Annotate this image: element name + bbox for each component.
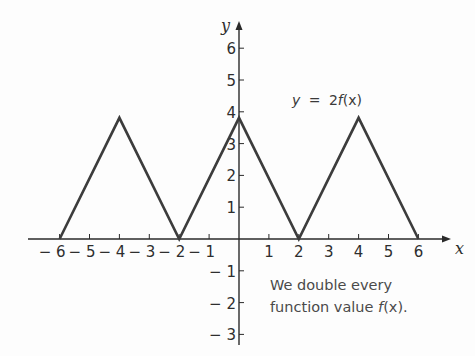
- note-line-2-suffix: .: [403, 299, 408, 315]
- y-tick-label: 2: [226, 167, 236, 185]
- x-tick-label: − 2: [158, 243, 185, 261]
- equation-lhs: y: [291, 92, 301, 108]
- x-axis-label: x: [455, 239, 464, 258]
- y-tick-label: 4: [226, 104, 236, 122]
- y-tick-label: 6: [226, 40, 236, 58]
- note-line-2: function value f(x).: [270, 299, 408, 315]
- x-tick-label: − 6: [39, 243, 66, 261]
- note-line-1: We double every: [270, 277, 392, 293]
- y-axis-ticks: [239, 48, 244, 334]
- y-tick-label: − 1: [209, 263, 236, 281]
- y-tick-label: − 2: [209, 295, 236, 313]
- note-line-2-prefix: function value: [270, 299, 378, 315]
- x-tick-label: 4: [354, 243, 364, 261]
- y-axis-arrow-icon: [236, 21, 243, 30]
- x-tick-label: 6: [414, 243, 424, 261]
- x-tick-label: 3: [324, 243, 334, 261]
- x-tick-labels: − 6− 5− 4− 3− 2− 1123456: [39, 243, 423, 261]
- function-graph: − 6− 5− 4− 3− 2− 1123456 654321− 1− 2− 3…: [0, 0, 475, 356]
- y-axis-label: y: [220, 16, 231, 35]
- equation-coefficient: 2: [329, 92, 338, 108]
- x-tick-label: 2: [294, 243, 304, 261]
- y-tick-label: 1: [226, 199, 236, 217]
- y-tick-label: 5: [226, 72, 236, 90]
- x-tick-label: − 3: [128, 243, 155, 261]
- x-axis-arrow-icon: [442, 236, 451, 243]
- y-tick-label: − 3: [209, 326, 236, 344]
- equation-argument: (x): [343, 92, 362, 108]
- y-tick-labels: 654321− 1− 2− 3: [209, 40, 236, 344]
- equation-label: y = 2f(x): [291, 92, 362, 108]
- note-line-2-argument: (x): [383, 299, 403, 315]
- equation-equals: =: [309, 92, 321, 108]
- x-tick-label: 5: [384, 243, 394, 261]
- x-tick-label: 1: [264, 243, 274, 261]
- x-tick-label: − 1: [188, 243, 215, 261]
- x-tick-label: − 4: [99, 243, 126, 261]
- x-tick-label: − 5: [69, 243, 96, 261]
